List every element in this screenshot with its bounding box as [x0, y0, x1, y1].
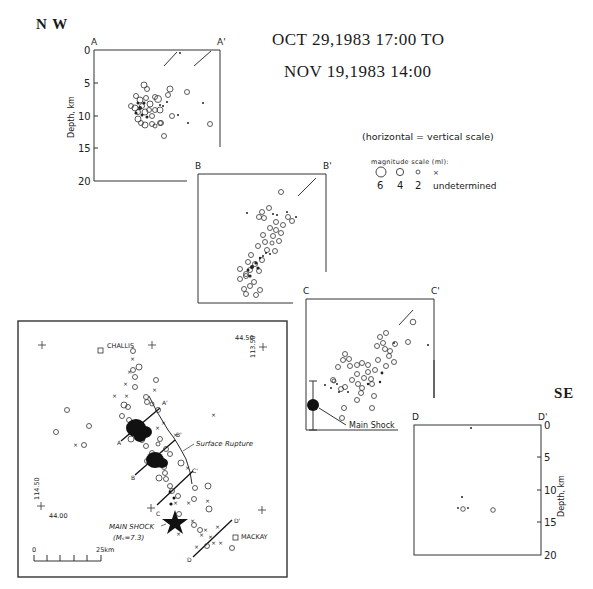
svg-text:×: × [218, 539, 223, 546]
section-c-panel [306, 299, 434, 430]
svg-text:×: × [152, 386, 157, 393]
svg-text:×: × [205, 497, 210, 504]
section-d-panel [414, 425, 541, 555]
map-labels: CHALLIS MACKAY 44.50 44.00 113.50 114.50… [32, 334, 268, 563]
svg-text:15: 15 [78, 143, 91, 154]
map-epicenters [54, 349, 235, 551]
svg-text:A': A' [162, 399, 168, 406]
svg-text:×: × [185, 464, 190, 471]
svg-text:B': B' [323, 161, 332, 171]
svg-text:×: × [73, 441, 78, 448]
svg-text:5: 5 [544, 452, 550, 463]
svg-text:C': C' [431, 286, 440, 296]
main-shock-mag-label: (Mₛ=7.3) [113, 534, 144, 542]
svg-text:×: × [161, 419, 166, 426]
scale-start: 0 [32, 546, 36, 554]
svg-text:×: × [186, 499, 191, 506]
svg-text:×: × [112, 392, 117, 399]
section-c-minor-events [324, 342, 429, 393]
svg-text:A': A' [217, 37, 226, 47]
lon-left: 114.50 [33, 477, 41, 500]
svg-text:D': D' [234, 517, 241, 524]
svg-text:×: × [190, 517, 195, 524]
town-mackay: MACKAY [241, 533, 268, 541]
svg-text:D: D [412, 412, 419, 422]
svg-text:20: 20 [544, 550, 557, 561]
depth-axis-label-left: Depth, km [67, 96, 76, 138]
section-d-events [457, 427, 495, 512]
svg-text:×: × [127, 368, 132, 375]
svg-text:×: × [130, 355, 135, 362]
map-scale-bar [34, 555, 101, 561]
svg-text:×: × [173, 499, 178, 506]
svg-text:×: × [211, 411, 216, 418]
svg-text:×: × [176, 530, 181, 537]
svg-text:5: 5 [84, 78, 90, 89]
lon-right: 113.50 [249, 335, 257, 358]
svg-text:C': C' [192, 467, 198, 474]
main-shock-star-icon [162, 510, 188, 534]
svg-text:A: A [91, 37, 98, 47]
svg-text:10: 10 [544, 485, 557, 496]
svg-text:B: B [195, 161, 201, 171]
section-c-events [331, 319, 416, 420]
section-b-panel [198, 174, 326, 303]
svg-text:×: × [155, 424, 160, 431]
lat-bottom: 44.00 [49, 512, 68, 520]
svg-text:D': D' [538, 412, 547, 422]
main-shock-section-label: Main Shock [349, 421, 395, 430]
svg-text:×: × [194, 543, 199, 550]
svg-text:C: C [303, 286, 309, 296]
svg-text:×: × [123, 380, 128, 387]
svg-text:×: × [173, 431, 178, 438]
svg-text:×: × [211, 539, 216, 546]
svg-text:15: 15 [544, 517, 557, 528]
section-b-events [238, 190, 295, 298]
map-dense-clusters [126, 419, 176, 506]
map-undetermined-events: ××× ××× ××× ××× ××× ××× ××× ××× [73, 355, 223, 550]
svg-text:B: B [131, 474, 135, 481]
scale-end: 25km [96, 546, 114, 554]
svg-text:×: × [199, 531, 204, 538]
svg-text:D: D [187, 556, 192, 563]
surface-rupture-label: Surface Rupture [196, 440, 253, 448]
section-labels: AA' BB' CC' DD' [91, 37, 547, 422]
section-a-events [129, 82, 213, 139]
map-graticule [37, 341, 267, 514]
svg-text:×: × [124, 392, 129, 399]
depth-axis-label-right: Depth, km [557, 475, 566, 517]
main-shock-marker [307, 399, 319, 411]
svg-text:20: 20 [78, 176, 91, 187]
svg-text:C: C [156, 510, 160, 517]
main-shock-map-label: MAIN SHOCK [109, 523, 155, 531]
svg-text:0: 0 [84, 45, 90, 56]
svg-text:10: 10 [78, 111, 91, 122]
town-challis: CHALLIS [107, 342, 134, 350]
figure-canvas: 0 5 10 15 20 0 5 10 15 20 AA' BB' CC' DD… [0, 0, 593, 589]
svg-text:×: × [215, 523, 220, 530]
